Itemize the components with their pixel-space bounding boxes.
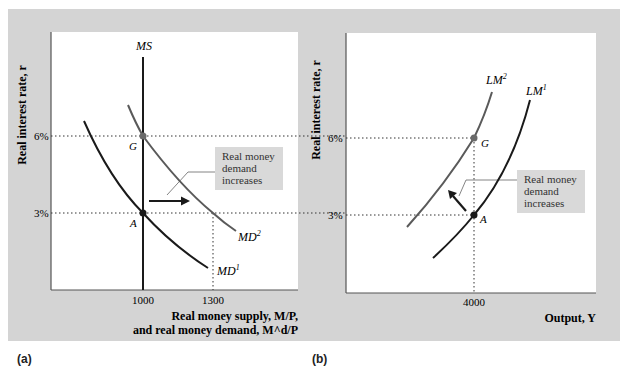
point-g-a [140,133,147,140]
ylabel-a: Real interest rate, r [15,64,29,164]
xtick-1000: 1000 [132,294,155,306]
xtick-4000: 4000 [463,296,486,308]
plot-area-b [346,33,596,293]
ytick-6pct-a: 6% [34,130,49,142]
xlabel-b: Output, Y [544,311,596,325]
ms-label: MS [135,39,152,53]
point-g-label-a: G [129,140,137,152]
point-a-label-b: A [479,213,487,225]
point-a-b [471,212,478,219]
ytick-6pct-b: 6% [328,132,343,144]
xtick-1300: 1300 [202,294,225,306]
ytick-3pct-a: 3% [34,207,49,219]
panel-label-b: (b) [312,352,327,366]
ylabel-b: Real interest rate, r [309,59,323,159]
panel-b: Real money demand increases LM2 LM1 G A … [309,33,596,325]
point-g-label-b: G [481,137,489,149]
panel-label-a: (a) [17,352,32,366]
point-a-a [140,210,147,217]
xlabel-a-line1: Real money supply, M/P, [171,309,298,323]
xlabel-a-line2: and real money demand, M^d/P [133,323,298,337]
point-g-b [471,135,478,142]
ytick-3pct-b: 3% [328,209,343,221]
point-a-label-a: A [129,217,137,229]
figure: Real money demand increases MS MD1 MD2 G… [0,0,628,376]
